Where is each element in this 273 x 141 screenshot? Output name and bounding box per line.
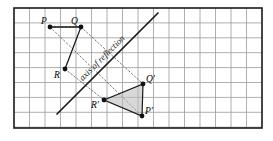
vertex-point-Rp — [102, 98, 107, 103]
vertex-point-R — [63, 67, 68, 72]
vertex-label-Qp: Q' — [146, 74, 156, 84]
vertex-point-Pp — [140, 114, 145, 119]
vertex-label-R: R — [53, 70, 60, 80]
vertex-point-Q — [79, 25, 84, 30]
reflection-figure: PQRR'Q'P' axis of reflection — [0, 0, 273, 141]
vertex-label-Pp: P' — [144, 106, 154, 116]
vertex-point-P — [48, 25, 53, 30]
vertex-point-Qp — [141, 82, 146, 87]
vertex-label-Q: Q — [71, 16, 78, 26]
figure-canvas: PQRR'Q'P' axis of reflection — [0, 0, 273, 141]
vertex-label-Rp: R' — [90, 100, 100, 110]
vertex-label-P: P — [40, 16, 47, 26]
